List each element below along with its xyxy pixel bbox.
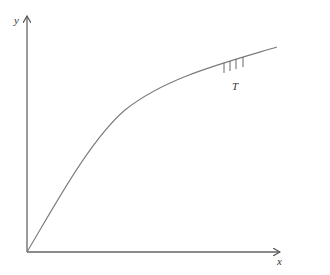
y-axis-label: y (13, 14, 19, 26)
diagram-canvas: y x T (0, 0, 330, 275)
tick-marks (224, 57, 243, 73)
tick-label-T: T (232, 80, 239, 92)
x-axis-label: x (276, 255, 282, 267)
curve (27, 47, 277, 252)
